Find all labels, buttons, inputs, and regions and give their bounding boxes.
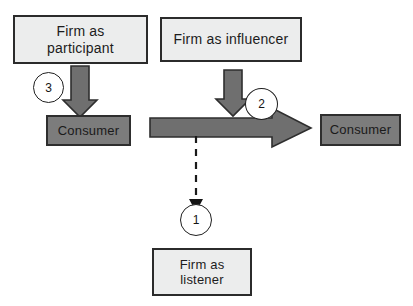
node-label: Firm as influencer: [174, 31, 289, 48]
node-label: Consumer: [58, 123, 120, 138]
step-badge-3[interactable]: 3: [33, 72, 64, 103]
diagram-canvas: Firm as participant Firm as influencer C…: [0, 0, 413, 306]
step-badge-1[interactable]: 1: [180, 204, 212, 236]
node-consumer-right[interactable]: Consumer: [320, 114, 401, 146]
step-badge-label: 2: [258, 97, 265, 111]
node-firm-as-participant[interactable]: Firm as participant: [13, 15, 148, 64]
node-label: Firm as listener: [180, 257, 225, 288]
step-badge-2[interactable]: 2: [245, 88, 278, 120]
node-firm-as-influencer[interactable]: Firm as influencer: [160, 17, 302, 62]
node-consumer-left[interactable]: Consumer: [46, 115, 131, 146]
node-firm-as-listener[interactable]: Firm as listener: [152, 248, 252, 296]
step-badge-label: 1: [193, 213, 200, 227]
node-label: Consumer: [330, 122, 392, 137]
step-badge-label: 3: [45, 81, 52, 95]
arrow-participant-to-consumer: [63, 66, 97, 117]
node-label: Firm as participant: [47, 23, 114, 56]
arrow-flow-to-listener: [189, 136, 203, 212]
